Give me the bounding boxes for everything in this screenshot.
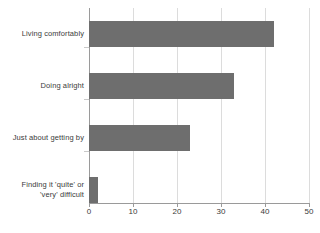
category-label-just-about-getting-by: Just about getting by — [0, 133, 84, 143]
category-label-line: 'very' difficult — [0, 190, 84, 200]
category-label-doing-alright: Doing alright — [0, 81, 84, 91]
bar-doing-alright — [89, 73, 234, 99]
category-tick — [84, 99, 89, 100]
category-label-line: Living comfortably — [0, 29, 84, 39]
bar-chart: Living comfortably Doing alright Just ab… — [0, 0, 320, 233]
category-tick — [84, 151, 89, 152]
plot-area — [89, 8, 309, 203]
x-tick-label-10: 10 — [121, 207, 145, 216]
bar-finding-it-difficult — [89, 177, 98, 203]
bar-row — [89, 21, 274, 47]
bar-living-comfortably — [89, 21, 274, 47]
category-label-line: Finding it 'quite' or — [0, 180, 84, 190]
category-tick — [84, 47, 89, 48]
category-label-living-comfortably: Living comfortably — [0, 29, 84, 39]
bar-row — [89, 125, 190, 151]
category-label-finding-it-difficult: Finding it 'quite' or 'very' difficult — [0, 180, 84, 200]
bar-row — [89, 177, 98, 203]
x-tick-label-40: 40 — [253, 207, 277, 216]
bar-row — [89, 73, 234, 99]
x-tick-label-50: 50 — [297, 207, 320, 216]
x-tick-label-20: 20 — [165, 207, 189, 216]
bar-just-about-getting-by — [89, 125, 190, 151]
category-label-line: Doing alright — [0, 81, 84, 91]
x-axis-line — [89, 203, 309, 204]
x-tick-label-30: 30 — [209, 207, 233, 216]
gridline-50 — [309, 8, 310, 203]
category-label-line: Just about getting by — [0, 133, 84, 143]
x-tick-label-0: 0 — [77, 207, 101, 216]
